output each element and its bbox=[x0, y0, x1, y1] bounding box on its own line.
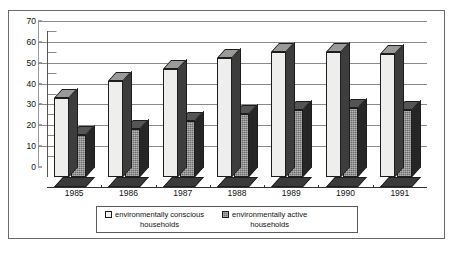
y-axis-tick-label: 10 bbox=[27, 142, 36, 151]
chart-legend: environmentally conscious households env… bbox=[96, 206, 358, 233]
y-axis-tick-label: 50 bbox=[27, 58, 36, 67]
x-axis-tick-label: 1990 bbox=[336, 189, 355, 198]
x-axis-tick-label: 1985 bbox=[65, 189, 84, 198]
bar-group bbox=[271, 21, 312, 187]
legend-item-active: environmentally active households bbox=[204, 210, 307, 229]
legend-swatch-conscious-icon bbox=[105, 211, 112, 218]
legend-label-active-line2: households bbox=[250, 220, 289, 229]
bar-group bbox=[380, 21, 421, 187]
bar-1990-conscious[interactable] bbox=[326, 52, 341, 177]
legend-label-conscious-line2: households bbox=[140, 220, 179, 229]
floor-wedge bbox=[380, 177, 421, 187]
bar-1989-conscious[interactable] bbox=[271, 52, 286, 177]
y-axis-tick-label: 0 bbox=[31, 163, 36, 172]
bar-group bbox=[217, 21, 258, 187]
bar-side bbox=[140, 119, 149, 177]
bar-side bbox=[395, 44, 404, 177]
floor-wedge bbox=[217, 177, 258, 187]
floor-wedge bbox=[163, 177, 204, 187]
bar-face bbox=[163, 69, 178, 177]
bar-face bbox=[380, 54, 395, 177]
x-axis-tick-mark bbox=[264, 185, 265, 188]
bar-side bbox=[123, 71, 132, 177]
floor-wedge bbox=[271, 177, 312, 187]
bar-side bbox=[358, 98, 367, 177]
bar-face bbox=[271, 52, 286, 177]
bar-face bbox=[326, 52, 341, 177]
bar-side bbox=[69, 88, 78, 177]
bar-1988-conscious[interactable] bbox=[217, 58, 232, 177]
bar-face bbox=[108, 81, 123, 177]
x-axis-tick-mark bbox=[210, 185, 211, 188]
x-axis-tick-label: 1987 bbox=[173, 189, 192, 198]
legend-label-active: environmentally active households bbox=[232, 210, 307, 229]
x-axis-tick-mark bbox=[156, 185, 157, 188]
x-axis-tick-mark bbox=[318, 185, 319, 188]
x-axis-tick-mark bbox=[373, 185, 374, 188]
bar-side bbox=[303, 100, 312, 177]
bar-side bbox=[232, 48, 241, 177]
y-axis-tick-label: 60 bbox=[27, 38, 36, 47]
y-axis-tick-label: 30 bbox=[27, 100, 36, 109]
bar-side bbox=[412, 100, 421, 177]
bar-side bbox=[286, 42, 295, 177]
bar-side bbox=[249, 104, 258, 177]
bar-side bbox=[195, 111, 204, 177]
y-axis-tick-label: 70 bbox=[27, 17, 36, 26]
x-axis-tick-mark bbox=[101, 185, 102, 188]
x-axis-tick-label: 1988 bbox=[228, 189, 247, 198]
bar-group bbox=[54, 21, 95, 187]
x-axis: 1985198619871988198919901991 bbox=[47, 187, 427, 201]
x-axis-tick-label: 1986 bbox=[119, 189, 138, 198]
bar-1987-conscious[interactable] bbox=[163, 69, 178, 177]
bar-group bbox=[326, 21, 367, 187]
bar-group bbox=[108, 21, 149, 187]
floor-wedge bbox=[54, 177, 95, 187]
bar-face bbox=[217, 58, 232, 177]
bar-face bbox=[54, 98, 69, 177]
legend-swatch-active-icon bbox=[222, 211, 229, 218]
y-axis: 010203040506070 bbox=[14, 21, 36, 167]
legend-item-conscious: environmentally conscious households bbox=[97, 210, 204, 229]
bar-1991-conscious[interactable] bbox=[380, 54, 395, 177]
bar-1986-conscious[interactable] bbox=[108, 81, 123, 177]
floor-wedge bbox=[326, 177, 367, 187]
bar-side bbox=[341, 42, 350, 177]
bar-side bbox=[178, 59, 187, 177]
bar-group bbox=[163, 21, 204, 187]
legend-label-conscious-line1: environmentally conscious bbox=[115, 210, 204, 219]
bar-1985-conscious[interactable] bbox=[54, 98, 69, 177]
x-axis-tick-label: 1989 bbox=[282, 189, 301, 198]
x-axis-tick-label: 1991 bbox=[390, 189, 409, 198]
y-axis-tick-label: 20 bbox=[27, 121, 36, 130]
legend-label-active-line1: environmentally active bbox=[232, 210, 307, 219]
y-axis-tick-label: 40 bbox=[27, 79, 36, 88]
chart-figure: 010203040506070 198519861987198819891990… bbox=[0, 0, 455, 254]
floor-wedge bbox=[108, 177, 149, 187]
bars-layer bbox=[47, 21, 427, 187]
legend-label-conscious: environmentally conscious households bbox=[115, 210, 204, 229]
